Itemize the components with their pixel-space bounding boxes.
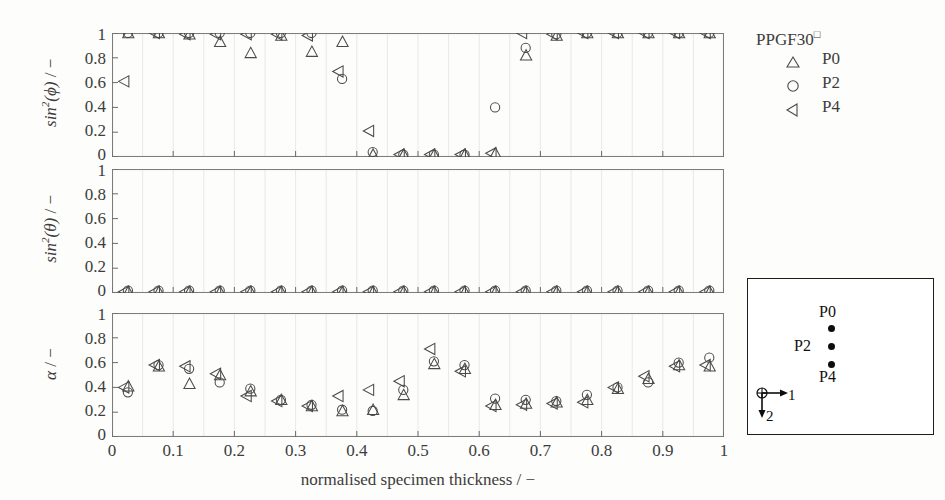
x-axis-tick-2: 0.2	[209, 441, 259, 461]
panel3-ytick-06: 0.6	[58, 353, 106, 373]
legend-label-p4: P4	[822, 97, 840, 117]
panel3-ytick-1: 1	[58, 305, 106, 325]
x-axis-title-text: normalised specimen thickness / −	[301, 470, 535, 489]
x-axis-tick-8: 0.8	[577, 441, 627, 461]
panel1-ytick-08: 0.8	[58, 49, 106, 69]
legend-label-p2: P2	[822, 73, 840, 93]
x-axis-tick-row: 00.10.20.30.40.50.60.70.80.91	[0, 441, 945, 465]
legend-title: PPGF30□	[756, 28, 820, 50]
legend-label-p0: P0	[822, 49, 840, 69]
legend-title-text: PPGF30	[756, 30, 814, 49]
schematic-label-p2: P2	[794, 337, 811, 355]
x-axis-tick-3: 0.3	[271, 441, 321, 461]
x-axis-tick-1: 0.1	[148, 441, 198, 461]
panel2-ytick-06: 0.6	[58, 209, 106, 229]
panel3-ytick-02: 0.2	[58, 401, 106, 421]
panel1-ytick-04: 0.4	[58, 97, 106, 117]
schematic-coordinate-axes-icon	[754, 384, 814, 430]
schematic-axis1-label: 1	[788, 387, 796, 404]
x-axis-tick-9: 0.9	[638, 441, 688, 461]
x-axis-tick-4: 0.4	[332, 441, 382, 461]
panel2-ytick-1: 1	[58, 161, 106, 181]
figure-container: sin2(ϕ) / − 1 0.8 0.6 0.4 0.2 0 sin2(θ) …	[0, 0, 945, 500]
schematic-dot-p2	[828, 343, 835, 350]
panel1-ytick-02: 0.2	[58, 121, 106, 141]
panel3-plot-area	[112, 313, 724, 437]
legend-marker-p2	[784, 78, 802, 94]
schematic-label-p4: P4	[819, 368, 836, 386]
panel1-ytick-06: 0.6	[58, 73, 106, 93]
legend-marker-p4	[784, 102, 802, 118]
x-axis-tick-0: 0	[87, 441, 137, 461]
schematic-dot-p4	[828, 361, 835, 368]
panel3-ytick-04: 0.4	[58, 377, 106, 397]
x-axis-tick-5: 0.5	[393, 441, 443, 461]
panel2-ytick-08: 0.8	[58, 185, 106, 205]
schematic-label-p0: P0	[819, 303, 836, 321]
legend-title-superscript: □	[814, 28, 821, 40]
panel2-ytick-0: 0	[58, 281, 106, 301]
x-axis-tick-6: 0.6	[454, 441, 504, 461]
panel2-plot-area	[112, 169, 724, 293]
schematic-dot-p0	[828, 325, 835, 332]
panel2-ytick-02: 0.2	[58, 257, 106, 277]
panel3-ytick-08: 0.8	[58, 329, 106, 349]
panel1-plot-area	[112, 33, 724, 157]
legend-marker-p0	[784, 54, 802, 70]
x-axis-title: normalised specimen thickness / −	[0, 470, 836, 490]
specimen-schematic: P0 P2 P4 1 2	[747, 278, 934, 435]
legend: PPGF30□ P0 P2 P4	[756, 28, 945, 138]
x-axis-tick-10: 1	[699, 441, 749, 461]
x-axis-tick-7: 0.7	[515, 441, 565, 461]
panel2-ytick-04: 0.4	[58, 233, 106, 253]
panel1-ytick-1: 1	[58, 25, 106, 45]
schematic-axis2-label: 2	[766, 408, 774, 425]
